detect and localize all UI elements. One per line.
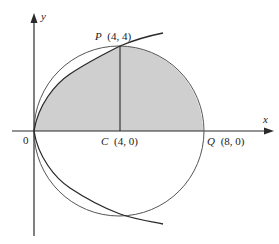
point-C-name: C: [101, 135, 109, 147]
parabola-lower-branch: [34, 131, 163, 224]
origin-label: 0: [23, 134, 29, 146]
y-axis-label: y: [40, 10, 46, 22]
diagram: y x 0 P (4, 4) C (4, 0) Q (8, 0): [0, 0, 279, 244]
shaded-region: [34, 46, 203, 131]
diagram-canvas: y x 0 P (4, 4) C (4, 0) Q (8, 0): [0, 0, 279, 244]
point-P-coords: (4, 4): [107, 30, 131, 43]
y-axis-arrow-icon: [31, 13, 38, 23]
point-P-label: P (4, 4): [94, 30, 131, 43]
point-P-name: P: [94, 30, 102, 42]
x-axis-label: x: [262, 113, 268, 125]
point-Q-coords: (8, 0): [221, 135, 245, 148]
point-C-coords: (4, 0): [114, 135, 138, 148]
point-Q-label: Q (8, 0): [207, 135, 245, 148]
point-Q-name: Q: [207, 135, 215, 147]
point-C-label: C (4, 0): [101, 135, 138, 148]
x-axis-arrow-icon: [264, 128, 274, 135]
